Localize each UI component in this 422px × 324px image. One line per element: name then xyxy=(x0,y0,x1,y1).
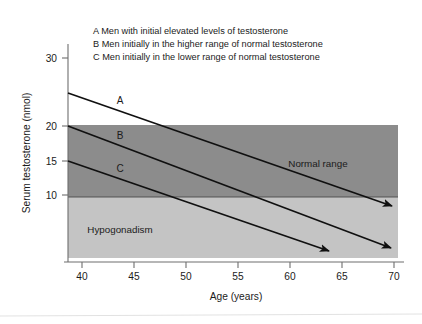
series-label-b: B xyxy=(117,130,124,141)
testosterone-decline-chart: 30 20 15 10 40 45 50 55 60 65 70 Age (ye… xyxy=(0,0,422,324)
x-tick-label-70: 70 xyxy=(388,271,400,282)
x-axis-title: Age (years) xyxy=(210,291,263,302)
chart-figure: 30 20 15 10 40 45 50 55 60 65 70 Age (ye… xyxy=(0,0,422,324)
normal-range-label: Normal range xyxy=(288,158,348,169)
y-tick-label-20: 20 xyxy=(46,121,58,132)
y-tick-label-15: 15 xyxy=(46,156,58,167)
y-tick-label-10: 10 xyxy=(46,190,58,201)
series-label-c: C xyxy=(116,163,123,174)
hypogonadism-label: Hypogonadism xyxy=(87,224,152,235)
y-tick-label-30: 30 xyxy=(46,53,58,64)
y-axis-title: Serum testosterone (nmol) xyxy=(21,93,32,214)
x-tick-label-65: 65 xyxy=(336,271,348,282)
legend-item-a: A Men with initial elevated levels of te… xyxy=(93,26,288,36)
x-tick-label-50: 50 xyxy=(180,271,192,282)
x-tick-label-55: 55 xyxy=(232,271,244,282)
legend-item-b: B Men initially in the higher range of n… xyxy=(93,39,323,49)
series-label-a: A xyxy=(117,95,124,106)
x-tick-label-60: 60 xyxy=(284,271,296,282)
x-tick-label-40: 40 xyxy=(76,271,88,282)
legend-item-c: C Men initially in the lower range of no… xyxy=(93,52,320,62)
x-tick-label-45: 45 xyxy=(128,271,140,282)
